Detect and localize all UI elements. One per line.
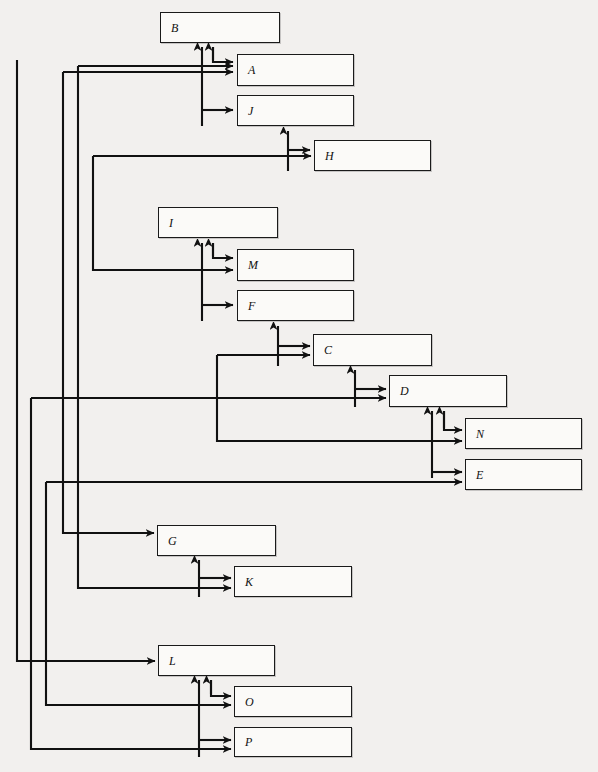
block-node[interactable]: F — [237, 290, 354, 321]
node-label: D — [400, 384, 409, 399]
node-label: J — [248, 103, 254, 118]
block-node[interactable]: G — [157, 525, 276, 556]
block-node[interactable]: L — [158, 645, 275, 676]
block-node[interactable]: N — [465, 418, 582, 449]
node-label: L — [169, 653, 176, 668]
block-node[interactable]: M — [237, 249, 354, 281]
node-label: B — [171, 20, 179, 35]
block-node[interactable]: D — [389, 375, 507, 407]
block-node[interactable]: H — [314, 140, 431, 171]
node-label: I — [169, 215, 174, 230]
block-node[interactable]: B — [160, 12, 280, 43]
block-node[interactable]: O — [234, 686, 352, 717]
node-label: A — [248, 63, 256, 78]
node-label: O — [245, 694, 254, 709]
block-node[interactable]: K — [234, 566, 352, 597]
node-label: N — [476, 426, 485, 441]
node-label: F — [248, 298, 256, 313]
node-label: C — [324, 343, 333, 358]
node-label: M — [248, 258, 259, 273]
node-label: P — [245, 735, 253, 750]
node-label: E — [476, 467, 484, 482]
node-label: K — [245, 574, 254, 589]
block-node[interactable]: P — [234, 727, 352, 757]
block-node[interactable]: J — [237, 95, 354, 126]
diagram-canvas: B A J H I M F C D N E G K L O P — [0, 0, 598, 772]
block-node[interactable]: I — [158, 207, 278, 238]
node-label: H — [325, 148, 334, 163]
block-node[interactable]: A — [237, 54, 354, 86]
block-node[interactable]: E — [465, 459, 582, 490]
block-node[interactable]: C — [313, 334, 432, 366]
node-label: G — [168, 533, 177, 548]
